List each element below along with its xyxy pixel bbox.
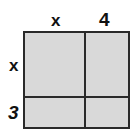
vertical-divider — [84, 31, 86, 129]
horizontal-divider — [23, 96, 130, 98]
side-label-x: x — [9, 57, 18, 74]
top-label-4: 4 — [99, 11, 110, 28]
side-label-3: 3 — [8, 104, 19, 121]
area-rectangle — [23, 31, 130, 129]
top-label-x: x — [51, 12, 60, 29]
